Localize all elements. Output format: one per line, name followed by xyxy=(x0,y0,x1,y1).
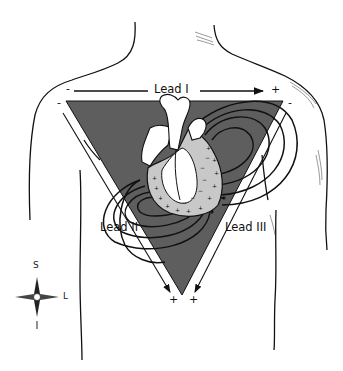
compass-rose-icon xyxy=(15,277,59,329)
lead-1-positive-sign: + xyxy=(271,84,280,95)
svg-text:−: − xyxy=(190,194,195,201)
svg-text:+: + xyxy=(175,206,180,213)
compass-left-label: L xyxy=(63,292,68,301)
svg-text:+: + xyxy=(214,169,219,176)
svg-text:−: − xyxy=(202,176,207,183)
lead-1-negative-sign: - xyxy=(66,83,70,94)
compass-superior-label: S xyxy=(33,261,39,270)
lead-2-negative-sign: - xyxy=(57,97,61,108)
einthoven-triangle-diagram: +++ +++ +++ +++ −−− −−− xyxy=(0,0,343,371)
svg-text:+: + xyxy=(212,156,217,163)
lead-1-label: Lead I xyxy=(154,84,189,96)
svg-text:−: − xyxy=(205,154,210,161)
svg-text:+: + xyxy=(186,207,191,214)
svg-text:+: + xyxy=(152,174,157,181)
svg-text:+: + xyxy=(207,194,212,201)
lead-2-positive-sign: + xyxy=(169,294,178,305)
svg-text:+: + xyxy=(198,204,203,211)
lead-3-label: Lead III xyxy=(225,222,266,234)
svg-text:+: + xyxy=(212,182,217,189)
lead-3-positive-sign: + xyxy=(189,294,198,305)
svg-text:−: − xyxy=(200,164,205,171)
svg-text:+: + xyxy=(154,184,159,191)
svg-text:−: − xyxy=(198,187,203,194)
svg-text:+: + xyxy=(165,202,170,209)
svg-text:+: + xyxy=(206,144,211,151)
svg-text:+: + xyxy=(158,194,163,201)
svg-text:−: − xyxy=(182,199,187,206)
lead-2-label: Lead II xyxy=(100,222,138,234)
lead-3-negative-sign: - xyxy=(288,97,292,108)
